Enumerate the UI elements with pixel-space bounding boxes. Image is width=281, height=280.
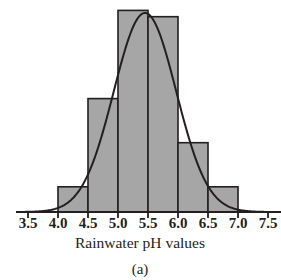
- histogram-chart: 3.54.04.55.05.56.06.57.07.5 Rainwater pH…: [0, 0, 281, 280]
- panel-caption: (a): [132, 261, 149, 278]
- figure-panel: 3.54.04.55.05.56.06.57.07.5 Rainwater pH…: [0, 0, 281, 280]
- x-axis-tick-label: 4.5: [79, 215, 98, 231]
- histogram-bar: [88, 99, 118, 212]
- x-axis-tick-label: 5.5: [139, 215, 158, 231]
- x-axis-tick-label: 7.0: [229, 215, 248, 231]
- x-axis-tick-label: 4.0: [49, 215, 68, 231]
- x-axis-tick-label: 6.5: [199, 215, 218, 231]
- x-axis-tick-label: 6.0: [169, 215, 188, 231]
- x-axis-tick-labels: 3.54.04.55.05.56.06.57.07.5: [19, 215, 278, 231]
- x-axis-tick-label: 5.0: [109, 215, 128, 231]
- x-axis-tick-label: 3.5: [19, 215, 38, 231]
- x-axis-tick-label: 7.5: [259, 215, 278, 231]
- x-axis-title: Rainwater pH values: [75, 234, 205, 251]
- histogram-bar: [118, 10, 148, 212]
